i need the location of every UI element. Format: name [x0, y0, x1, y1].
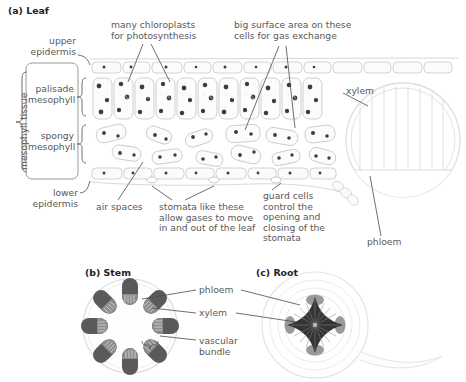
- leaf-vein: [345, 83, 463, 201]
- spongy-mesophyll-cells: [95, 123, 338, 168]
- leader-lower-epidermis: [80, 181, 90, 193]
- leader-stomata-left: [152, 186, 172, 200]
- leaf-cross-section: [90, 58, 463, 207]
- root-cross-section: [262, 272, 442, 378]
- leader-upper-epidermis: [78, 55, 90, 65]
- vascular-bundle: [81, 318, 108, 334]
- label-palisade-mesophyll: palisade mesophyll: [28, 84, 74, 105]
- label-stomata: stomata like these allow gases to move i…: [159, 202, 255, 234]
- label-xylem-stem-root: xylem: [199, 308, 227, 319]
- stem-cross-section: [81, 278, 179, 375]
- panel-title-stem: (b) Stem: [85, 268, 131, 279]
- leaf-vein-phloem: [345, 171, 463, 201]
- vascular-bundle: [152, 318, 179, 334]
- label-guard-cells: guard cells control the opening and clos…: [263, 191, 325, 244]
- label-phloem-leaf: phloem: [367, 237, 401, 248]
- label-lower-epidermis: lower epidermis: [0, 188, 78, 209]
- panel-title-root: (c) Root: [256, 268, 298, 279]
- label-air-spaces: air spaces: [96, 202, 143, 213]
- label-phloem-stem-root: phloem: [199, 285, 233, 296]
- bundle-sheath-cells: [331, 179, 361, 207]
- label-spongy-mesophyll: spongy mesophyll: [28, 131, 74, 152]
- leader-stomata-right: [185, 186, 214, 200]
- root-hair: [360, 352, 442, 368]
- label-surface-area: big surface area on these cells for gas …: [234, 20, 351, 41]
- label-xylem-leaf: xylem: [346, 86, 374, 97]
- label-chloroplasts: many chloroplasts for photosynthesis: [111, 20, 196, 41]
- figure-root: (a) Leaf (b) Stem (c) Root upper epiderm…: [0, 0, 466, 382]
- label-upper-epidermis: upper epidermis: [0, 36, 76, 57]
- panel-title-leaf: (a) Leaf: [8, 6, 49, 17]
- label-vascular-bundle: vascular bundle: [199, 336, 238, 357]
- vascular-bundle: [122, 278, 138, 305]
- vascular-bundle: [122, 348, 138, 375]
- mesophyll-label-box: [26, 63, 78, 179]
